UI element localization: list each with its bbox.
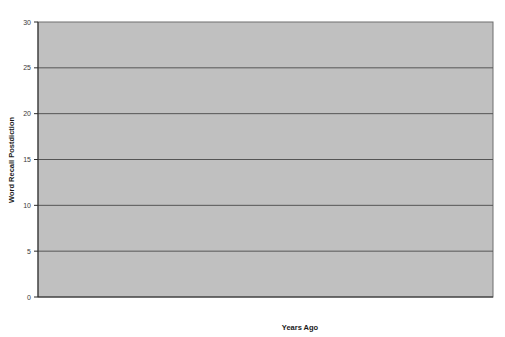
y-tick-label: 10 bbox=[23, 202, 31, 209]
chart-figure: 051015202530 Word Recall Postdiction Yea… bbox=[0, 0, 505, 337]
x-axis-title: Years Ago bbox=[282, 323, 319, 332]
y-tick-label: 0 bbox=[27, 294, 31, 301]
y-tick-label: 25 bbox=[23, 64, 31, 71]
y-axis-title: Word Recall Postdiction bbox=[7, 117, 16, 204]
y-tick-label: 15 bbox=[23, 156, 31, 163]
y-tick-label: 30 bbox=[23, 19, 31, 26]
y-tick-label: 5 bbox=[27, 248, 31, 255]
spaghetti-plot: 051015202530 Word Recall Postdiction Yea… bbox=[0, 0, 505, 337]
y-tick-label: 20 bbox=[23, 110, 31, 117]
